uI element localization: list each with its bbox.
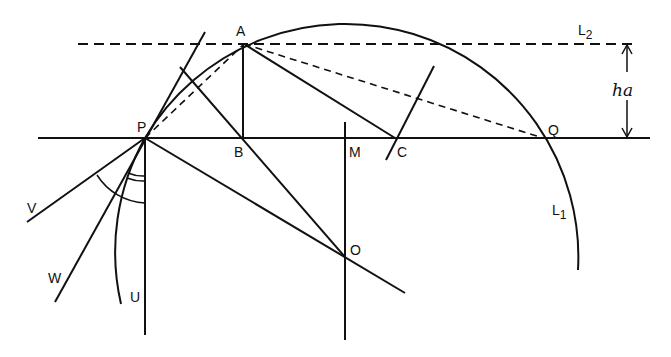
label-ha: ha: [612, 80, 633, 100]
label-o: O: [350, 242, 361, 258]
label-l2-main: L: [578, 22, 586, 38]
label-l2: L2: [578, 22, 593, 42]
label-w: W: [48, 270, 62, 286]
label-v: V: [27, 200, 37, 216]
arc-l1: [115, 24, 578, 304]
label-l1: L1: [552, 202, 567, 222]
geometry-diagram: A B C M O P Q U V W L1 L2 ha: [0, 0, 671, 357]
label-l2-sub: 2: [586, 28, 593, 42]
line-b-o: [180, 67, 345, 257]
label-b: B: [234, 144, 243, 160]
line-p-o: [145, 138, 405, 293]
perpendicular-at-c: [386, 66, 434, 160]
label-q: Q: [548, 122, 559, 138]
line-w: [55, 32, 205, 302]
label-m: M: [349, 144, 361, 160]
angle-arc-inner-1: [128, 173, 145, 176]
label-l1-main: L: [552, 202, 560, 218]
label-c: C: [397, 144, 407, 160]
angle-arc-inner-2: [127, 178, 145, 181]
label-u: U: [130, 289, 140, 305]
label-p: P: [137, 119, 146, 135]
label-l1-sub: 1: [560, 208, 567, 222]
segment-ac: [244, 44, 395, 138]
label-a: A: [236, 23, 246, 39]
dashed-a-q: [244, 44, 543, 138]
